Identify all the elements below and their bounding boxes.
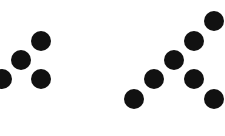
dot (184, 69, 204, 89)
dot (124, 89, 144, 109)
dot (31, 31, 51, 51)
dot (184, 31, 204, 51)
dot (204, 11, 224, 31)
dot (164, 50, 184, 70)
dot-pattern-canvas (0, 0, 225, 136)
dot (0, 69, 12, 89)
dot (204, 89, 224, 109)
dot (31, 69, 51, 89)
dot (144, 69, 164, 89)
dot (11, 50, 31, 70)
